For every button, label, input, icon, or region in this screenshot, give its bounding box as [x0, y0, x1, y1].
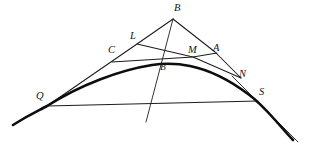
point-label-c: C	[108, 45, 115, 56]
chord-q-s	[47, 101, 258, 106]
point-label-q: Q	[36, 91, 44, 102]
point-label-m: M	[188, 45, 197, 56]
line-b-a-n	[173, 19, 241, 78]
point-label-n: N	[239, 69, 246, 80]
point-label-b: B	[174, 3, 180, 14]
point-label-l: L	[130, 31, 136, 42]
point-label-a: A	[213, 43, 219, 54]
figure-canvas	[0, 0, 310, 151]
parabola-arc	[13, 64, 293, 140]
point-label-s: S	[259, 87, 264, 98]
geometry-figure: B L C M A B" N S Q	[0, 0, 310, 151]
point-label-b-double-prime: B"	[160, 63, 170, 73]
